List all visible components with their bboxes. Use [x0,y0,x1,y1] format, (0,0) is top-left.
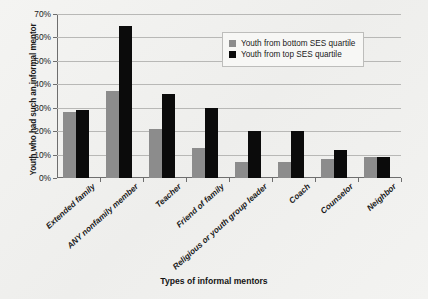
bar [291,131,304,178]
legend-swatch-icon [229,40,236,47]
bar [205,108,218,178]
bar-group [143,14,186,178]
x-tick-label: Coach [287,182,312,205]
chart-legend: Youth from bottom SES quartile Youth fro… [222,32,364,67]
bar [192,148,205,178]
legend-item-top-ses: Youth from top SES quartile [229,50,355,59]
y-tick-label: 0% [39,173,51,183]
bar [162,94,175,178]
x-axis-tick-labels: Extended familyANY nonfamily memberTeach… [57,178,401,273]
legend-swatch-icon [229,51,236,58]
legend-item-bottom-ses: Youth from bottom SES quartile [229,39,355,48]
bar-group [358,14,401,178]
x-axis-title: Types of informal mentors [0,276,428,286]
bar [106,91,119,178]
y-tick-label: 40% [34,79,51,89]
bar [76,110,89,178]
x-tick-label: ANY nonfamily member [65,182,140,250]
bar [364,157,377,178]
bar [119,26,132,178]
bar [377,157,390,178]
y-tick-label: 30% [34,103,51,113]
bar [248,131,261,178]
legend-label: Youth from bottom SES quartile [241,39,355,48]
x-tick-label: Neighbor [365,182,398,213]
bar [63,112,76,178]
y-tick-label: 60% [34,32,51,42]
bar [278,162,291,178]
bar-group [100,14,143,178]
y-tick-label: 20% [34,126,51,136]
x-tick-label: Religious or youth group leader [171,182,269,271]
bar-chart-figure: Youth who had such an informal mentor 0%… [0,0,428,299]
x-tick-label: Counselor [318,182,354,216]
y-tick-label: 10% [34,150,51,160]
bar [149,129,162,178]
bar [235,162,248,178]
y-tick-label: 50% [34,56,51,66]
bar [334,150,347,178]
bar-group [57,14,100,178]
x-tick-mark [401,178,402,182]
bar [321,159,334,178]
x-tick-label: Teacher [153,182,182,210]
y-tick-label: 70% [34,9,51,19]
legend-label: Youth from top SES quartile [241,50,342,59]
